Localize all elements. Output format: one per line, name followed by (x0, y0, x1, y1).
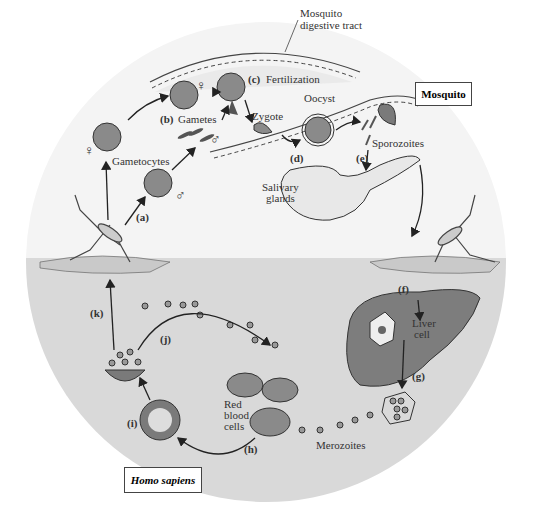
red-blood-cell (262, 378, 298, 402)
oocyst-label: Oocyst (304, 93, 335, 104)
female-symbol-gametocyte: ♀ (84, 145, 95, 156)
step-b-label: (b) (160, 114, 173, 125)
step-f-label: (f) (398, 284, 409, 295)
rbc-label-3: cells (224, 421, 244, 432)
step-a-label: (a) (136, 212, 149, 223)
mosquito-host-label: Mosquito (415, 82, 472, 106)
zygote-label: Zygote (252, 111, 283, 122)
red-blood-cell (227, 373, 263, 397)
step-e-label: (e) (356, 153, 368, 164)
human-host-label: Homo sapiens (124, 467, 202, 493)
sporozoites-label: Sporozoites (372, 138, 424, 149)
merozoites-label: Merozoites (316, 440, 365, 451)
step-h-label: (h) (244, 444, 257, 455)
digestive-tract-label-2: digestive tract (300, 20, 362, 31)
fertilization-label: Fertilization (266, 74, 320, 85)
salivary-label-2: glands (266, 193, 295, 204)
step-i-label: (i) (127, 418, 137, 429)
fertilization-cell (217, 73, 245, 101)
liver-cell-label-2: cell (414, 329, 430, 340)
malaria-life-cycle-diagram: Mosquito Homo sapiens Mosquito digestive… (0, 0, 533, 517)
female-gamete (170, 81, 198, 109)
step-g-label: (g) (412, 371, 425, 382)
step-k-label: (k) (90, 308, 103, 319)
oocyst (305, 117, 331, 143)
step-j-label: (j) (160, 334, 171, 345)
gametocytes-label: Gametocytes (112, 156, 169, 167)
female-symbol-gamete: ♀ (196, 80, 207, 91)
male-symbol-gametocyte: ♂ (175, 190, 186, 201)
step-d-label: (d) (290, 153, 303, 164)
step-c-label: (c) (248, 74, 260, 85)
gametes-label: Gametes (178, 114, 216, 125)
female-gametocyte (93, 123, 121, 151)
male-gametocyte (144, 169, 172, 197)
male-symbol-gamete: ♂ (210, 134, 221, 145)
digestive-tract-label-1: Mosquito (300, 8, 342, 19)
infected-red-blood-cell (250, 408, 290, 436)
